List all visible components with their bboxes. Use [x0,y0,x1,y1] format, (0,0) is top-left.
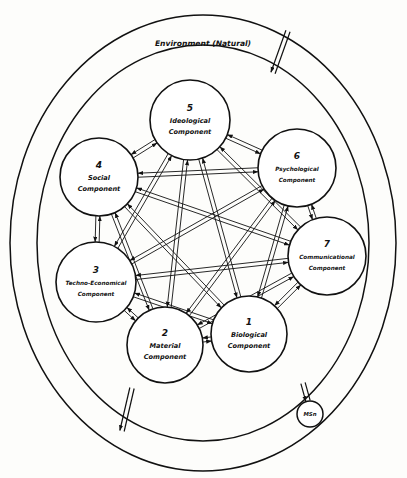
node-number-3: 3 [93,265,99,275]
edge-line [227,135,262,151]
node-label-line2-1: Component [228,342,271,350]
connector-line [120,388,130,431]
node-number-2: 2 [162,328,168,338]
edge-line [95,216,96,242]
edge-line [261,206,288,298]
node-label-line1-5: Ideological [170,117,211,125]
edge-line [135,192,289,245]
edge-line [167,160,183,307]
edge-line [308,206,313,220]
edge-5-6 [226,135,263,154]
edge-2-3 [124,307,138,320]
node-number-4: 4 [95,160,102,170]
edge-line [131,140,155,155]
edge-line [127,204,224,305]
node-label-line2-3: Component [78,291,115,298]
node-label-line1-2: Material [150,342,182,350]
edge-line [186,198,272,313]
edge-line [127,307,138,317]
node-label-line2-2: Component [144,353,187,361]
edge-1-5 [199,158,241,298]
edge-4-5 [131,140,157,158]
edge-3-4 [95,216,100,242]
node-number-1: 1 [246,317,252,327]
edge-6-7 [308,204,317,219]
node-label-line2-7: Component [309,265,346,272]
edge-line [203,158,241,297]
node-label-line1-3: Techno-Economical [66,280,128,286]
environment-link-bottom-left [120,388,134,432]
edge-line [99,216,100,242]
edge-line [137,188,291,241]
edge-line [133,143,157,158]
edge-line [277,285,301,309]
mini-node-link [301,382,310,401]
node-number-6: 6 [294,151,300,161]
edge-line [203,341,212,342]
node-label-line2-5: Component [169,128,212,136]
edge-1-7 [274,282,300,308]
node-label-line1-4: Social [88,174,111,182]
connector-line [301,384,306,402]
node-label-line1-6: Psychological [275,166,319,173]
diagram-root: 1BiologicalComponent2MaterialComponent3T… [0,0,407,478]
system-components-diagram: 1BiologicalComponent2MaterialComponent3T… [0,0,407,478]
node-label-line1-1: Biological [231,331,268,339]
edge-line [136,258,288,275]
mini-node-label: MSn [303,411,316,417]
edge-line [132,189,264,264]
edge-line [202,337,211,338]
edge-line [226,138,261,154]
edge-line [311,204,316,218]
node-label-line2-4: Component [78,185,121,193]
node-label-line2-6: Component [279,177,316,184]
edge-line [124,310,135,320]
connector-line [124,388,134,431]
node-number-7: 7 [324,239,331,249]
node-number-5: 5 [187,103,193,113]
environment-title: Environment (Natural) [155,39,251,48]
edge-1-4 [124,204,224,308]
node-label-line1-7: Communicational [299,254,356,260]
edge-1-6 [258,205,288,298]
edge-1-2 [202,337,211,342]
